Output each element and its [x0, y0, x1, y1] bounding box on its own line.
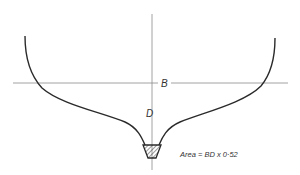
area-formula-label: Area = BD x 0·52	[179, 150, 239, 159]
keel-hatched-area	[143, 145, 161, 158]
hull-outline-right	[159, 38, 275, 145]
midship-section-diagram: B D Area = BD x 0·52	[0, 0, 300, 175]
depth-label: D	[146, 108, 153, 119]
hull-outline-left	[25, 36, 145, 145]
breadth-label: B	[161, 78, 168, 89]
